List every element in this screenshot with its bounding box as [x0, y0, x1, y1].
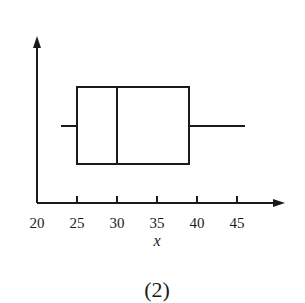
iqr-box	[77, 87, 189, 164]
y-axis-arrow-icon	[33, 36, 41, 48]
x-tick-label: 40	[190, 215, 205, 231]
x-axis-label: x	[152, 232, 160, 249]
axes	[33, 36, 285, 207]
x-tick-label: 30	[110, 215, 125, 231]
box-plot	[61, 87, 245, 164]
x-tick-label: 25	[70, 215, 85, 231]
x-tick-label: 45	[230, 215, 245, 231]
x-ticks	[77, 196, 237, 203]
box-plot-chart: 202530354045 x (2)	[0, 0, 305, 303]
x-tick-label: 35	[150, 215, 165, 231]
x-axis-arrow-icon	[273, 199, 285, 207]
x-tick-labels: 202530354045	[30, 215, 245, 231]
x-tick-label: 20	[30, 215, 45, 231]
figure-caption: (2)	[144, 277, 170, 302]
